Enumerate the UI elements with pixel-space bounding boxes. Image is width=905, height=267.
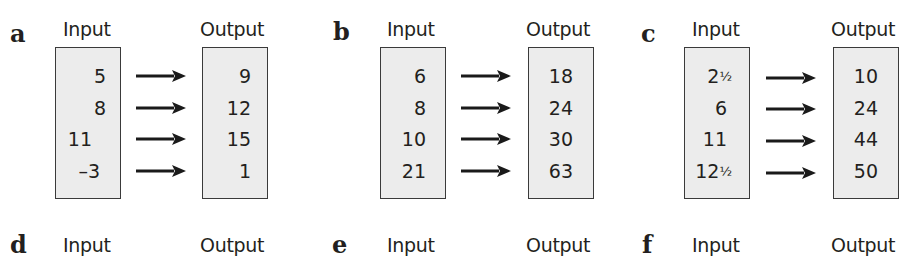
input-fraction: ½ bbox=[719, 69, 731, 84]
output-box: 18 24 30 63 bbox=[528, 47, 594, 199]
output-value: 12 bbox=[227, 97, 251, 119]
output-header: Output bbox=[526, 19, 590, 39]
output-header-e: Output bbox=[526, 235, 590, 255]
right-arrow-icon bbox=[136, 133, 186, 145]
input-box: 2½ 6 11 12½ bbox=[684, 47, 750, 199]
input-value: 12½ bbox=[695, 160, 731, 183]
input-value: 5 bbox=[94, 65, 106, 87]
right-arrow-icon bbox=[766, 103, 816, 115]
input-value: 10 bbox=[402, 128, 426, 150]
input-whole: 12 bbox=[695, 160, 719, 182]
output-value: 63 bbox=[549, 160, 573, 182]
right-arrow-icon bbox=[136, 70, 186, 82]
output-value: 1 bbox=[239, 160, 251, 182]
right-arrow-icon bbox=[766, 135, 816, 147]
right-arrow-icon bbox=[461, 70, 511, 82]
output-box: 10 24 44 50 bbox=[833, 47, 899, 199]
input-value: 2½ bbox=[707, 65, 731, 88]
input-header-d: Input bbox=[63, 235, 111, 255]
exercise-letter-f: f bbox=[642, 233, 652, 257]
right-arrow-icon bbox=[766, 72, 816, 84]
input-value: –3 bbox=[78, 160, 100, 182]
input-value: 11 bbox=[703, 128, 727, 150]
right-arrow-icon bbox=[136, 102, 186, 114]
output-value: 10 bbox=[854, 65, 878, 87]
right-arrow-icon bbox=[136, 165, 186, 177]
output-value: 24 bbox=[549, 97, 573, 119]
input-value: 8 bbox=[94, 97, 106, 119]
input-value: 11 bbox=[68, 128, 92, 150]
exercise-c: c Input Output 2½ 6 11 12½ 10 24 44 50 bbox=[620, 0, 905, 205]
output-header-f: Output bbox=[831, 235, 895, 255]
right-arrow-icon bbox=[461, 133, 511, 145]
exercise-letter: a bbox=[10, 22, 26, 46]
exercise-letter: b bbox=[333, 20, 350, 44]
exercise-a: a Input Output 5 8 11 –3 9 12 15 1 bbox=[0, 0, 300, 205]
exercise-letter: c bbox=[641, 22, 656, 46]
output-value: 9 bbox=[239, 65, 251, 87]
output-header: Output bbox=[200, 19, 264, 39]
right-arrow-icon bbox=[766, 167, 816, 179]
output-value: 18 bbox=[549, 65, 573, 87]
input-header: Input bbox=[692, 19, 740, 39]
input-header: Input bbox=[63, 19, 111, 39]
output-value: 44 bbox=[854, 128, 878, 150]
input-header-f: Input bbox=[692, 235, 740, 255]
input-value: 6 bbox=[414, 65, 426, 87]
input-box: 6 8 10 21 bbox=[380, 47, 446, 199]
output-value: 15 bbox=[227, 128, 251, 150]
exercise-letter-e: e bbox=[332, 233, 347, 257]
input-header: Input bbox=[387, 19, 435, 39]
output-value: 50 bbox=[854, 160, 878, 182]
right-arrow-icon bbox=[461, 165, 511, 177]
input-value: 6 bbox=[715, 97, 727, 119]
input-value: 8 bbox=[414, 97, 426, 119]
input-box: 5 8 11 –3 bbox=[55, 47, 121, 199]
exercise-b: b Input Output 6 8 10 21 18 24 30 63 bbox=[320, 0, 620, 205]
output-header-d: Output bbox=[200, 235, 264, 255]
input-header-e: Input bbox=[387, 235, 435, 255]
output-value: 24 bbox=[854, 97, 878, 119]
exercise-letter-d: d bbox=[10, 233, 27, 257]
output-box: 9 12 15 1 bbox=[202, 47, 268, 199]
right-arrow-icon bbox=[461, 102, 511, 114]
output-value: 30 bbox=[549, 128, 573, 150]
input-fraction: ½ bbox=[719, 164, 731, 179]
input-value: 21 bbox=[402, 160, 426, 182]
output-header: Output bbox=[831, 19, 895, 39]
input-whole: 2 bbox=[707, 65, 719, 87]
